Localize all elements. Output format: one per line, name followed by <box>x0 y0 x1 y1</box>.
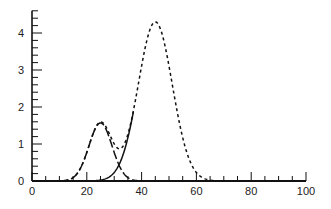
axes: 02040608010001234 <box>18 11 315 197</box>
y-tick-label: 0 <box>18 175 24 187</box>
y-tick-label: 3 <box>18 64 24 76</box>
curves <box>59 22 223 181</box>
y-tick-label: 4 <box>18 27 24 39</box>
y-tick-label: 1 <box>18 138 24 150</box>
x-tick-label: 100 <box>297 185 315 197</box>
x-tick-label: 20 <box>81 185 93 197</box>
x-tick-label: 80 <box>245 185 257 197</box>
curve-sum <box>59 22 223 181</box>
x-tick-label: 0 <box>29 185 35 197</box>
gaussian-fit-chart: 02040608010001234 <box>0 0 331 209</box>
x-tick-label: 60 <box>190 185 202 197</box>
y-tick-label: 2 <box>18 101 24 113</box>
x-tick-label: 40 <box>135 185 147 197</box>
